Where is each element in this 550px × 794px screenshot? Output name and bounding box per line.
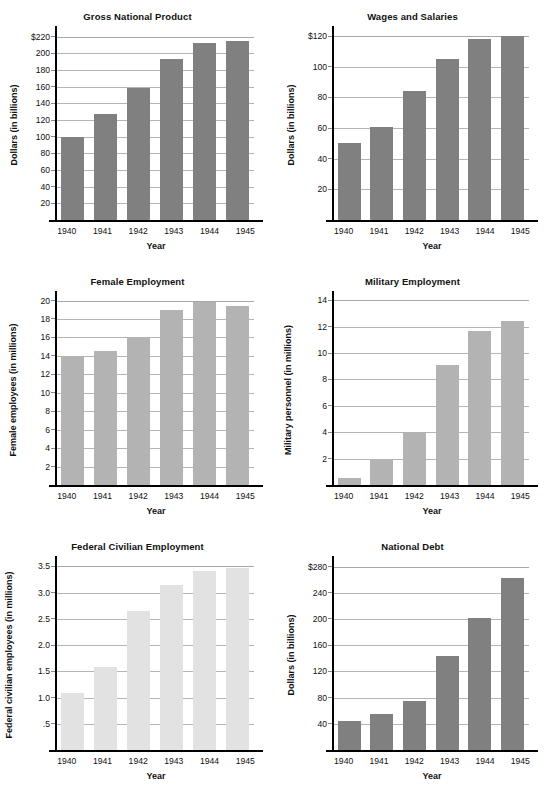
bar xyxy=(370,127,393,220)
bar xyxy=(94,114,117,220)
bar-series xyxy=(333,560,529,750)
y-tick-label: 140 xyxy=(36,98,50,108)
y-tick-label: 16 xyxy=(40,332,50,342)
y-tick-label: 1.0 xyxy=(38,693,50,703)
bar xyxy=(160,585,183,750)
y-tick-label: 18 xyxy=(40,314,50,324)
y-tick-label: 20 xyxy=(317,184,327,194)
x-tick-label: 1941 xyxy=(361,756,396,766)
bar-slot xyxy=(155,560,188,750)
bar-series xyxy=(333,30,529,220)
bar xyxy=(501,321,524,485)
y-tick-label: 8 xyxy=(45,406,50,416)
bar-slot xyxy=(122,295,155,485)
bar-slot xyxy=(221,295,254,485)
y-tick-label: 40 xyxy=(317,719,327,729)
bar-slot xyxy=(221,30,254,220)
bar-slot xyxy=(221,560,254,750)
y-tick-label: 8 xyxy=(322,374,327,384)
plot-area: 20406080100$120 194019411942194319441945… xyxy=(333,30,529,220)
bar-slot xyxy=(56,560,89,750)
y-tick-label: 12 xyxy=(40,369,50,379)
bar-slot xyxy=(188,295,221,485)
chart-title: Federal Civilian Employment xyxy=(0,541,275,552)
bar-slot xyxy=(398,295,431,485)
bar-slot xyxy=(188,30,221,220)
y-tick-label: 160 xyxy=(36,82,50,92)
bar-slot xyxy=(89,30,122,220)
bar-slot xyxy=(333,295,366,485)
x-axis-line xyxy=(326,750,538,752)
x-tick-label: 1945 xyxy=(503,491,538,501)
y-tick-label: 2 xyxy=(45,462,50,472)
chart-panel-wages-and-salaries: Wages and Salaries Dollars (in billions)… xyxy=(275,0,550,265)
chart-title: Female Employment xyxy=(0,276,275,287)
bar xyxy=(127,611,150,750)
x-tick-label: 1945 xyxy=(503,756,538,766)
y-tick-label: 14 xyxy=(40,351,50,361)
bar xyxy=(403,91,426,220)
x-tick-labels: 194019411942194319441945 xyxy=(326,226,538,236)
y-tick-label: 20 xyxy=(40,296,50,306)
x-tick-label: 1945 xyxy=(227,756,263,766)
bar-slot xyxy=(122,560,155,750)
y-tick-label: 10 xyxy=(40,388,50,398)
plot-area: 2468101214 194019411942194319441945 Year xyxy=(333,295,529,485)
chart-title: Gross National Product xyxy=(0,11,275,22)
bar xyxy=(468,39,491,220)
plot-area: .51.01.52.02.53.03.5 1940194119421943194… xyxy=(56,560,254,750)
bar-series xyxy=(56,560,254,750)
bar xyxy=(501,578,524,750)
bar xyxy=(61,693,84,750)
bar-slot xyxy=(464,295,497,485)
y-tick-label: 60 xyxy=(40,165,50,175)
bar xyxy=(94,351,117,485)
plot-area: 4080120160200240$280 1940194119421943194… xyxy=(333,560,529,750)
x-tick-label: 1943 xyxy=(432,491,467,501)
bar-slot xyxy=(56,30,89,220)
bar-slot xyxy=(464,30,497,220)
x-axis-title: Year xyxy=(49,506,263,516)
y-tick-label: $120 xyxy=(308,31,327,41)
y-axis-title: Dollars (in billions) xyxy=(6,30,20,220)
bar-slot xyxy=(496,295,529,485)
bar-slot xyxy=(366,560,399,750)
chart-panel-gross-national-product: Gross National Product Dollars (in billi… xyxy=(0,0,275,265)
x-tick-label: 1940 xyxy=(49,756,85,766)
bar xyxy=(436,656,459,750)
y-tick-label: 200 xyxy=(313,614,327,624)
y-tick-label: 4 xyxy=(322,427,327,437)
bar-slot xyxy=(333,30,366,220)
bar xyxy=(61,137,84,220)
chart-title: Military Employment xyxy=(275,276,550,287)
bar-slot xyxy=(89,560,122,750)
bar xyxy=(61,356,84,485)
x-tick-labels: 194019411942194319441945 xyxy=(49,756,263,766)
chart-panel-federal-civilian-employment: Federal Civilian Employment Federal civi… xyxy=(0,530,275,794)
bar-slot xyxy=(122,30,155,220)
bar-series xyxy=(333,295,529,485)
y-tick-label: 2 xyxy=(322,454,327,464)
bar-slot xyxy=(496,30,529,220)
bar xyxy=(193,43,216,220)
bar xyxy=(403,701,426,750)
bar-slot xyxy=(398,30,431,220)
x-tick-label: 1944 xyxy=(467,491,502,501)
bar xyxy=(160,59,183,220)
plot-area: 20406080100120140160180200$220 194019411… xyxy=(56,30,254,220)
y-tick-label: 180 xyxy=(36,65,50,75)
y-tick-label: 160 xyxy=(313,640,327,650)
y-tick-label: 3.0 xyxy=(38,588,50,598)
x-tick-label: 1943 xyxy=(156,226,192,236)
chart-panel-military-employment: Military Employment Military personnel (… xyxy=(275,265,550,530)
bar-slot xyxy=(431,30,464,220)
bar-slot xyxy=(155,30,188,220)
y-tick-label: 80 xyxy=(317,693,327,703)
bar xyxy=(127,88,150,220)
x-tick-label: 1944 xyxy=(467,226,502,236)
x-tick-labels: 194019411942194319441945 xyxy=(49,491,263,501)
y-axis-title: Female employees (in millions) xyxy=(6,295,20,485)
x-tick-label: 1945 xyxy=(227,226,263,236)
x-tick-label: 1941 xyxy=(85,756,121,766)
x-axis-title: Year xyxy=(326,771,538,781)
